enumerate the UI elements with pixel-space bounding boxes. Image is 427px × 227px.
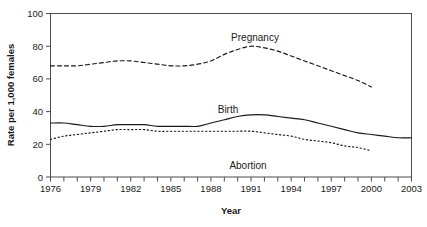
y-axis-title: Rate per 1,000 females	[5, 44, 16, 146]
x-tick-label: 1979	[80, 183, 101, 194]
chart-figure: 100 80 60 40 20 0 1976197919821985198819…	[0, 0, 427, 227]
y-tick-label: 0	[38, 172, 43, 183]
x-tick-label: 1988	[200, 183, 221, 194]
y-tick-label: 100	[27, 8, 43, 19]
x-tick-label: 2003	[401, 183, 422, 194]
x-tick-label: 1985	[160, 183, 181, 194]
y-tick-label: 60	[32, 73, 43, 84]
series-label-pregnancy: Pregnancy	[231, 32, 279, 43]
x-tick-label: 1994	[281, 183, 302, 194]
x-tick-label: 1976	[40, 183, 61, 194]
line-chart: 100 80 60 40 20 0 1976197919821985198819…	[0, 0, 427, 227]
y-tick-label: 20	[32, 139, 43, 150]
y-tick-label: 40	[32, 106, 43, 117]
series-label-abortion: Abortion	[229, 160, 266, 171]
x-axis-title: Year	[221, 205, 241, 216]
x-tick-label: 1997	[321, 183, 342, 194]
y-tick-label: 80	[32, 41, 43, 52]
x-tick-label: 2000	[361, 183, 382, 194]
x-tick-label: 1991	[240, 183, 261, 194]
x-tick-label: 1982	[120, 183, 141, 194]
series-label-birth: Birth	[218, 104, 239, 115]
